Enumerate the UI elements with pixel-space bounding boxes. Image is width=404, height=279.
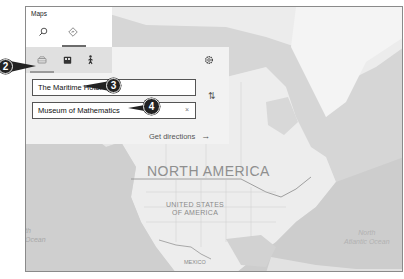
map-label-usa-line1: UNITED STATES — [166, 201, 224, 209]
map-label-mexico: MEXICO — [184, 259, 206, 265]
travel-mode-bar — [26, 47, 229, 73]
screenshot-stage: NORTH AMERICA UNITED STATES OF AMERICA M… — [0, 0, 404, 279]
map-label-usa: UNITED STATES OF AMERICA — [166, 201, 224, 217]
mode-transit-tab[interactable] — [58, 51, 76, 69]
map-label-atlantic-ocean: North Atlantic Ocean — [344, 228, 390, 246]
map-label-usa-line2: OF AMERICA — [166, 209, 224, 217]
callout-3-pointer — [80, 76, 130, 96]
callout-3: 3 — [106, 78, 121, 93]
map-label-pacific-line1: th — [25, 226, 46, 235]
callout-4: 4 — [143, 98, 160, 115]
gear-icon — [204, 51, 214, 69]
title-bar: Maps — [26, 7, 112, 47]
get-directions-button[interactable]: Get directions → — [149, 131, 210, 141]
clear-destination-button[interactable]: × — [185, 106, 189, 113]
map-label-north-america: NORTH AMERICA — [147, 163, 270, 179]
walk-icon — [86, 51, 95, 69]
search-icon — [38, 23, 48, 41]
destination-input-value: Museum of Mathematics — [38, 106, 120, 115]
get-directions-label: Get directions — [149, 132, 195, 141]
map-label-atlantic-line1: North — [344, 228, 390, 237]
map-label-atlantic-line2: Atlantic Ocean — [344, 237, 390, 246]
tab-search[interactable] — [30, 21, 56, 43]
tab-directions[interactable] — [60, 21, 86, 43]
directions-icon — [68, 23, 78, 41]
settings-button[interactable] — [201, 52, 217, 68]
app-title: Maps — [31, 10, 47, 17]
map-label-pacific-ocean: th Ocean — [25, 226, 46, 244]
maps-window: NORTH AMERICA UNITED STATES OF AMERICA M… — [25, 6, 403, 272]
swap-locations-button[interactable]: ⇅ — [208, 91, 215, 101]
bus-icon — [63, 51, 72, 69]
mode-walk-tab[interactable] — [81, 51, 99, 69]
arrow-right-icon: → — [201, 131, 210, 141]
map-label-pacific-line2: Ocean — [25, 235, 46, 244]
